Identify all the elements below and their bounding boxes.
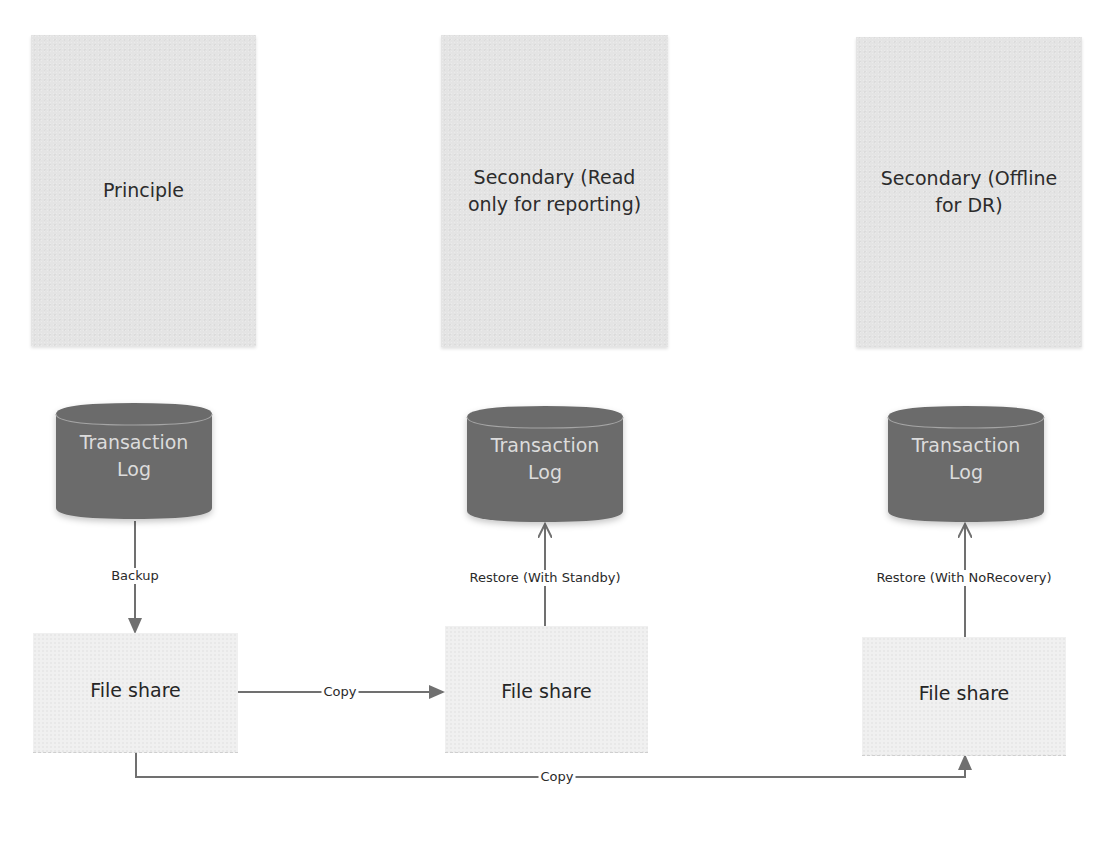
principle-file-share-label: File share: [90, 679, 181, 701]
secondary-read-only-server-label: Secondary (Read only for reporting): [460, 164, 650, 218]
copy-edge-label-secondary-read: Copy: [322, 684, 359, 700]
transaction-log-line1: Transaction: [466, 432, 624, 459]
restore-norecovery-edge-label: Restore (With NoRecovery): [874, 570, 1053, 586]
principle-transaction-log-label: Transaction Log: [55, 429, 213, 483]
principle-transaction-log-cylinder: Transaction Log: [55, 402, 213, 520]
secondary-read-only-transaction-log-cylinder: Transaction Log: [466, 405, 624, 523]
secondary-read-only-server-box: Secondary (Read only for reporting): [441, 35, 668, 347]
principle-server-box: Principle: [31, 35, 256, 346]
secondary-read-only-file-share-label: File share: [501, 680, 592, 702]
transaction-log-line2: Log: [466, 459, 624, 486]
secondary-offline-server-label: Secondary (Offline for DR): [869, 165, 1069, 219]
secondary-offline-transaction-log-cylinder: Transaction Log: [887, 405, 1045, 523]
secondary-read-only-transaction-log-label: Transaction Log: [466, 432, 624, 486]
secondary-offline-server-box: Secondary (Offline for DR): [856, 37, 1082, 347]
secondary-read-only-file-share: File share: [445, 626, 648, 753]
secondary-offline-file-share-label: File share: [919, 682, 1010, 704]
backup-edge-label: Backup: [109, 568, 161, 584]
restore-standby-edge-label: Restore (With Standby): [467, 570, 622, 586]
copy-edge-label-secondary-offline: Copy: [539, 769, 576, 785]
transaction-log-line2: Log: [887, 459, 1045, 486]
transaction-log-line1: Transaction: [887, 432, 1045, 459]
secondary-offline-file-share: File share: [862, 637, 1066, 756]
principle-server-label: Principle: [103, 177, 184, 204]
transaction-log-line2: Log: [55, 456, 213, 483]
secondary-offline-transaction-log-label: Transaction Log: [887, 432, 1045, 486]
transaction-log-line1: Transaction: [55, 429, 213, 456]
principle-file-share: File share: [33, 633, 238, 753]
